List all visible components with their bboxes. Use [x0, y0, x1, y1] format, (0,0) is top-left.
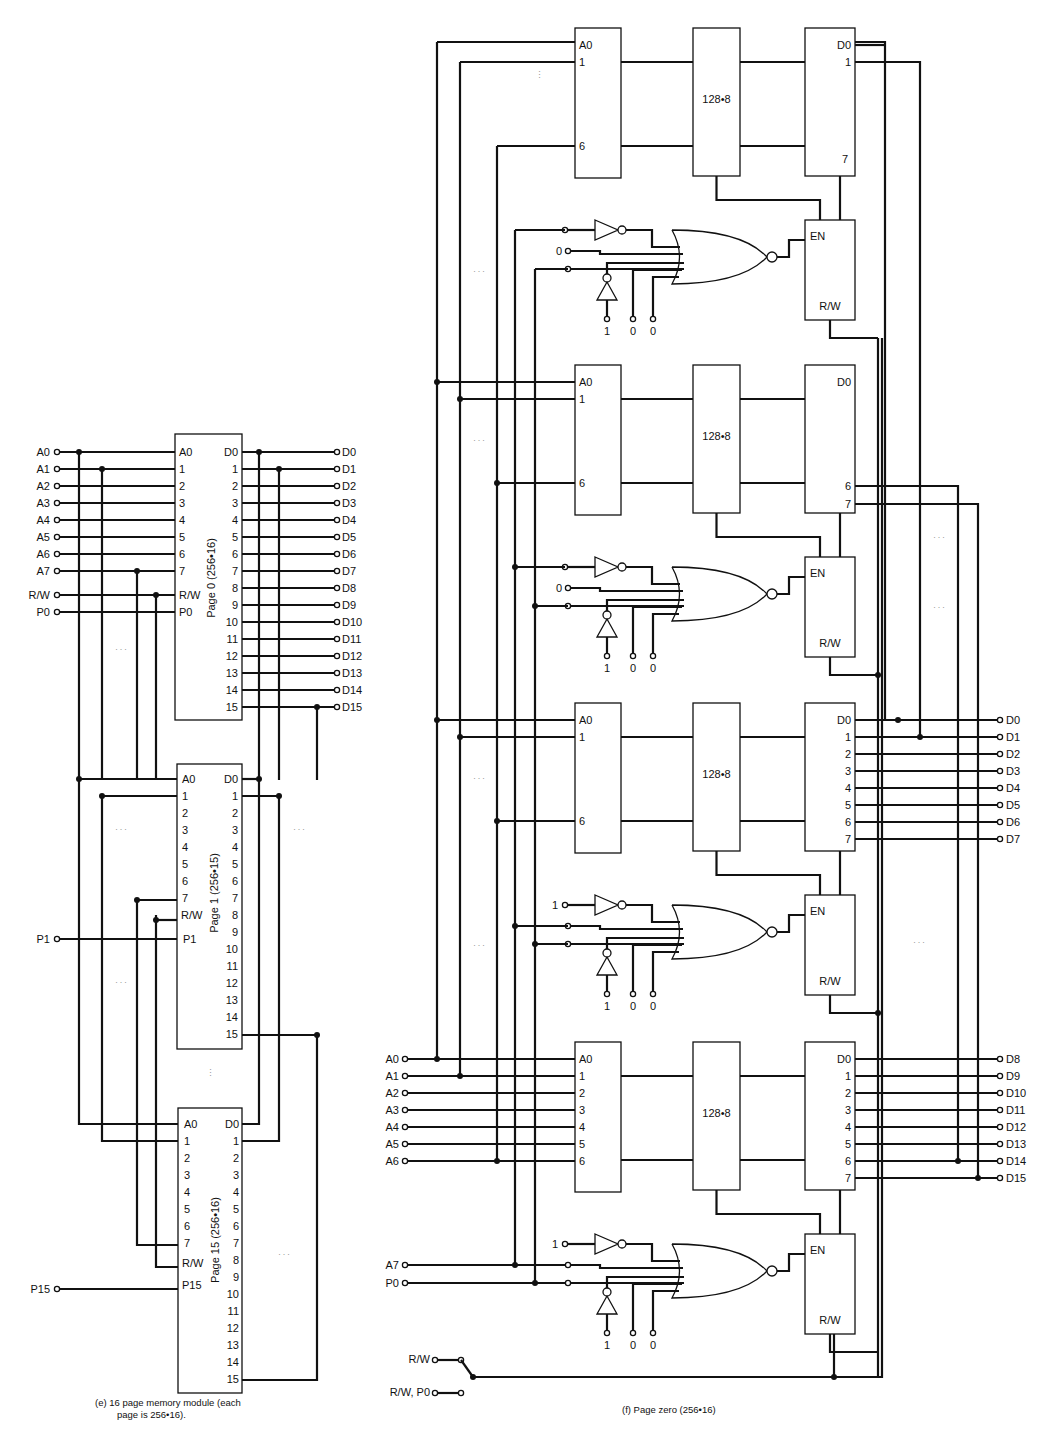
terminal-icon [402, 1158, 407, 1163]
terminal-icon [334, 466, 339, 471]
junction-dot [457, 396, 463, 402]
page15-pin-label: 6 [184, 1220, 190, 1232]
rw-label: R/W [819, 1314, 841, 1326]
terminal-icon [997, 1056, 1002, 1061]
page0-data-pin: 9 [232, 599, 238, 611]
junction-dot [875, 672, 881, 678]
page15-data-pin: 8 [233, 1254, 239, 1266]
constant-label: 1 [552, 899, 558, 911]
page0-data-pin: 3 [232, 497, 238, 509]
ellipsis: ... [115, 642, 129, 652]
terminal-icon [402, 1141, 407, 1146]
terminal-icon [334, 602, 339, 607]
output-label-D8: D8 [342, 582, 356, 594]
output-label-D1: D1 [342, 463, 356, 475]
terminal-icon [54, 534, 59, 539]
rw-label: R/W [819, 975, 841, 987]
vertical-ellipsis: ⋮ [535, 70, 546, 80]
input-label-A7: A7 [37, 565, 50, 577]
wire [570, 588, 683, 591]
terminal-icon [334, 670, 339, 675]
wire [717, 1190, 821, 1234]
terminal-icon [997, 1158, 1002, 1163]
terminal-icon [604, 1330, 609, 1335]
terminal-icon [54, 1286, 59, 1291]
en-label: EN [810, 905, 825, 917]
memory-schematic: A0A1A2A3A4A5A6A7R/WP0A01234567R/WP0D0123… [0, 0, 1051, 1451]
junction-dot [512, 1262, 518, 1268]
wire [777, 577, 805, 594]
output-label-D0: D0 [342, 446, 356, 458]
page0-pin-label: 4 [179, 514, 185, 526]
page15-data-pin: 11 [228, 1305, 239, 1317]
page15-data-pin: 3 [233, 1169, 239, 1181]
page1-data-pin: 12 [226, 977, 238, 989]
inverter-bubble [618, 563, 626, 571]
input-label-A0: A0 [37, 446, 50, 458]
constant-label: 1 [604, 1000, 610, 1012]
inverter-bubble [603, 1288, 611, 1296]
input-label-R/W: R/W [29, 589, 51, 601]
page0-pin-label: 7 [179, 565, 185, 577]
wire [242, 779, 259, 1124]
chip-label: 128•8 [702, 430, 730, 442]
output-label-D8: D8 [1006, 1053, 1020, 1065]
wire [242, 796, 279, 1141]
output-label-D4: D4 [1006, 782, 1020, 794]
addr-pin-label: 1 [579, 56, 585, 68]
data-pin-label: 1 [845, 731, 851, 743]
chip-label: 128•8 [702, 768, 730, 780]
switch-lever-icon [461, 1360, 473, 1377]
terminal-icon [334, 687, 339, 692]
data-pin-label: 3 [845, 1104, 851, 1116]
input-label-A7: A7 [386, 1259, 399, 1271]
constant-label: 1 [552, 1238, 558, 1250]
addr-pin-label: 2 [579, 1087, 585, 1099]
output-label-D6: D6 [342, 548, 356, 560]
ellipsis: ... [933, 600, 947, 610]
junction-dot [457, 734, 463, 740]
data-pin-label: 7 [845, 833, 851, 845]
terminal-icon [997, 1141, 1002, 1146]
terminal-icon [997, 1175, 1002, 1180]
junction-dot [494, 818, 500, 824]
terminal-icon [997, 819, 1002, 824]
terminal-icon [630, 1330, 635, 1335]
wire [830, 320, 878, 338]
wire [626, 1244, 680, 1261]
page0-pin-label: 2 [179, 480, 185, 492]
data-pin-label: 6 [845, 816, 851, 828]
page1-data-pin: 8 [232, 909, 238, 921]
inverter-bubble [767, 1266, 777, 1276]
wire [717, 176, 821, 220]
page0-pin-label: 5 [179, 531, 185, 543]
wire [626, 567, 680, 584]
page15-pin-label: 5 [184, 1203, 190, 1215]
constant-label: 0 [556, 245, 562, 257]
terminal-icon [402, 1090, 407, 1095]
terminal-icon [565, 585, 570, 590]
constant-label: 0 [630, 1339, 636, 1351]
output-label-D7: D7 [342, 565, 356, 577]
data-pin-label: 2 [845, 748, 851, 760]
terminal-icon [997, 768, 1002, 773]
constant-label: 0 [650, 662, 656, 674]
page0-data-pin: 2 [232, 480, 238, 492]
page0-data-pin: 6 [232, 548, 238, 560]
inverter-icon [595, 220, 618, 240]
output-label-D9: D9 [1006, 1070, 1020, 1082]
nor-gate-icon [672, 567, 767, 621]
terminal-icon [54, 568, 59, 573]
data-pin-label: 4 [845, 782, 851, 794]
output-label-D6: D6 [1006, 816, 1020, 828]
wire [102, 796, 178, 1141]
input-label-A4: A4 [386, 1121, 399, 1133]
inverter-bubble [603, 949, 611, 957]
page1-data-pin: 14 [226, 1011, 238, 1023]
page-0-title: Page 0 (256•16) [205, 538, 217, 618]
caption-f: (f) Page zero (256•16) [622, 1404, 716, 1416]
terminal-icon [997, 802, 1002, 807]
terminal-icon [54, 551, 59, 556]
junction-dot [532, 603, 538, 609]
constant-label: 1 [604, 325, 610, 337]
